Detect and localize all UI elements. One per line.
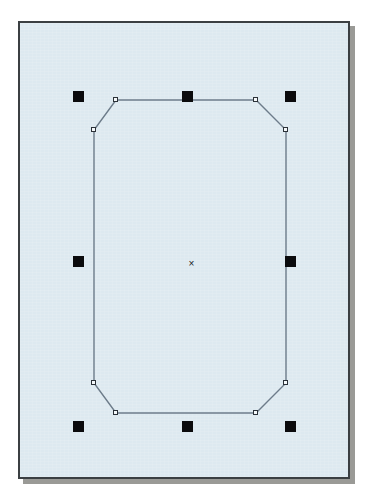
- node-top-left[interactable]: [113, 97, 118, 102]
- app-root: ×: [0, 0, 367, 502]
- handle-top-center[interactable]: [182, 91, 193, 102]
- node-bottom-right[interactable]: [253, 410, 258, 415]
- handle-bottom-center[interactable]: [182, 421, 193, 432]
- handle-bottom-right[interactable]: [285, 421, 296, 432]
- node-bottom-left[interactable]: [113, 410, 118, 415]
- handle-top-right[interactable]: [285, 91, 296, 102]
- handle-bottom-left[interactable]: [73, 421, 84, 432]
- transform-center-marker[interactable]: ×: [187, 259, 196, 268]
- handle-middle-left[interactable]: [73, 256, 84, 267]
- handle-middle-right[interactable]: [285, 256, 296, 267]
- drawing-canvas[interactable]: ×: [18, 21, 350, 479]
- node-right-upper[interactable]: [283, 127, 288, 132]
- node-left-lower[interactable]: [91, 380, 96, 385]
- node-right-lower[interactable]: [283, 380, 288, 385]
- handle-top-left[interactable]: [73, 91, 84, 102]
- node-left-upper[interactable]: [91, 127, 96, 132]
- node-top-right[interactable]: [253, 97, 258, 102]
- octagon-path[interactable]: [94, 100, 286, 413]
